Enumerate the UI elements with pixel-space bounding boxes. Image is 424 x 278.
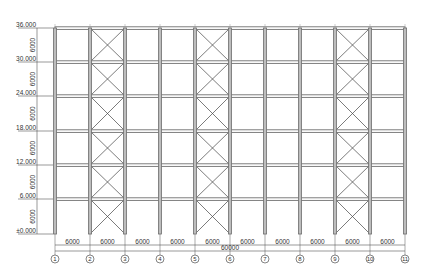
story-height-label: 6000: [29, 174, 36, 189]
column: [263, 28, 266, 234]
column: [53, 28, 56, 234]
axis-bubble: 11: [401, 255, 409, 263]
axis-bubble: 1: [51, 255, 59, 263]
elevation-label: 12.000: [16, 158, 36, 165]
axis-bubble: 3: [121, 255, 129, 263]
columns: [53, 24, 406, 258]
elevation-label: 24.000: [16, 89, 36, 96]
axis-bubble: 4: [156, 255, 164, 263]
elevation-label: ±0.000: [16, 227, 36, 234]
axis-bubble: 6: [226, 255, 234, 263]
total-span-label: 60000: [221, 244, 239, 251]
column: [88, 28, 91, 234]
elevation-label: 36.000: [16, 21, 36, 28]
column: [228, 28, 231, 234]
story-height-label: 6000: [29, 71, 36, 86]
column: [403, 28, 406, 234]
axis-bubble: 5: [191, 255, 199, 263]
column: [298, 28, 301, 234]
elevation-label: 18.000: [16, 124, 36, 131]
story-height-label: 6000: [29, 209, 36, 224]
story-height-label: 6000: [29, 140, 36, 155]
axis-bubble: 2: [86, 255, 94, 263]
axis-bubble: 8: [296, 255, 304, 263]
grid-axis-markers: 1234567891011: [51, 255, 409, 263]
frame-elevation-drawing: 36.00030.00024.00018.00012.0006.000±0.00…: [0, 0, 424, 278]
bay-span-label: 6000: [345, 238, 360, 245]
column: [368, 28, 371, 234]
bay-span-label: 6000: [100, 238, 115, 245]
bay-span-label: 6000: [240, 238, 255, 245]
elevation-label: 30.000: [16, 55, 36, 62]
bay-span-label: 6000: [65, 238, 80, 245]
axis-label: 10: [367, 256, 374, 262]
axis-bubble: 9: [331, 255, 339, 263]
column: [123, 28, 126, 234]
bay-span-label: 6000: [380, 238, 395, 245]
axis-bubble: 10: [366, 255, 374, 263]
axis-label: 11: [402, 256, 409, 262]
bay-span-label: 6000: [310, 238, 325, 245]
elevation-dimension-column: 36.00030.00024.00018.00012.0006.000±0.00…: [16, 21, 53, 235]
story-height-label: 6000: [29, 106, 36, 121]
bay-span-label: 6000: [135, 238, 150, 245]
column: [158, 28, 161, 234]
column: [193, 28, 196, 234]
elevation-label: 6.000: [20, 192, 37, 199]
story-height-label: 6000: [29, 37, 36, 52]
column: [333, 28, 336, 234]
bay-span-label: 6000: [205, 238, 220, 245]
bay-span-label: 6000: [170, 238, 185, 245]
axis-bubble: 7: [261, 255, 269, 263]
bay-span-label: 6000: [275, 238, 290, 245]
